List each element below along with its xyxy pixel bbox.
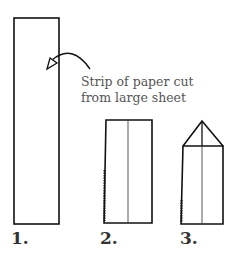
step-label-2: 2. [100, 228, 118, 248]
caption-line-1: Strip of paper cut [81, 74, 240, 90]
folding-diagram: Strip of paper cut from large sheet 1. 2… [0, 0, 240, 266]
annotation-caption: Strip of paper cut from large sheet [81, 74, 240, 106]
figure-2-folded [104, 120, 152, 223]
figure-1-strip [14, 18, 59, 224]
arrow-icon [47, 53, 90, 69]
step-label-1: 1. [11, 228, 29, 248]
diagram-drawing [0, 0, 240, 266]
caption-line-2: from large sheet [81, 90, 240, 106]
figure-3-peaked [181, 121, 223, 224]
step-label-3: 3. [180, 228, 198, 248]
